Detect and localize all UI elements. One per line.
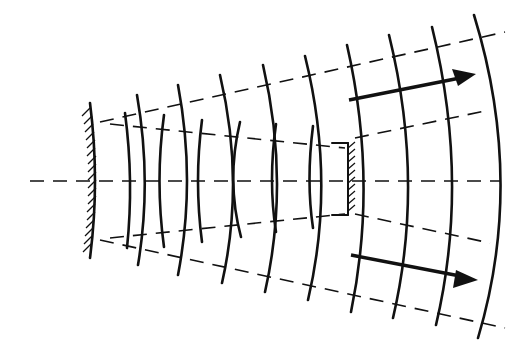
diagram-svg: [0, 0, 532, 359]
inner-rays: [110, 110, 490, 243]
center-mirror: [332, 142, 355, 215]
wavefronts-outer: [347, 15, 501, 338]
upper-arrow: [349, 69, 476, 100]
wavefronts-inner: [125, 56, 321, 300]
wavefront-diagram: [0, 0, 532, 359]
lower-arrow: [351, 255, 478, 288]
